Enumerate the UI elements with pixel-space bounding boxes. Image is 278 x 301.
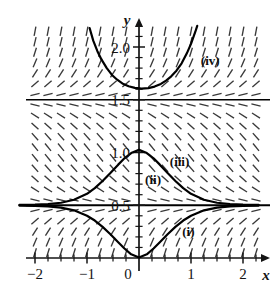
field-tick <box>214 165 220 172</box>
field-tick <box>31 81 38 87</box>
solution-curve-iv <box>90 26 198 89</box>
field-tick <box>86 27 88 36</box>
field-tick <box>70 218 77 224</box>
field-tick <box>213 187 221 192</box>
field-tick <box>109 218 116 224</box>
field-tick <box>227 228 232 236</box>
field-tick <box>96 187 104 192</box>
field-tick <box>147 209 156 211</box>
field-tick <box>240 176 247 182</box>
field-tick <box>212 209 221 211</box>
field-tick <box>122 187 130 192</box>
field-tick <box>254 238 258 247</box>
field-tick <box>214 176 221 182</box>
field-tick <box>251 199 260 201</box>
field-tick <box>201 69 206 77</box>
field-tick <box>188 133 194 140</box>
field-tick <box>149 144 155 151</box>
field-tick <box>123 176 130 182</box>
field-tick <box>73 37 75 46</box>
field-tick <box>73 27 75 36</box>
field-tick <box>69 104 78 106</box>
field-tick <box>240 154 246 161</box>
field-tick <box>201 144 207 151</box>
field-tick <box>45 123 52 129</box>
field-tick <box>253 228 258 236</box>
field-tick <box>227 133 233 140</box>
field-tick <box>82 199 91 201</box>
field-tick <box>226 218 233 224</box>
field-tick <box>151 48 154 57</box>
field-tick <box>95 104 104 106</box>
field-tick <box>82 93 91 95</box>
field-tick <box>56 93 65 95</box>
field-tick <box>30 209 39 211</box>
field-tick <box>43 199 52 201</box>
field-tick <box>238 104 247 106</box>
field-tick <box>229 48 232 57</box>
field-tick <box>84 123 91 129</box>
field-tick <box>252 218 259 224</box>
axis-titles-layer: yx <box>122 12 271 283</box>
field-tick <box>148 113 156 118</box>
field-tick <box>214 69 219 77</box>
field-tick <box>123 69 128 77</box>
field-tick <box>149 133 155 140</box>
field-tick <box>56 104 65 106</box>
field-tick <box>123 123 130 129</box>
field-tick <box>47 48 50 57</box>
field-tick <box>124 238 128 247</box>
field-tick <box>95 209 104 211</box>
field-tick <box>45 69 50 77</box>
field-tick <box>97 144 103 151</box>
field-tick <box>70 113 78 118</box>
x-tick-label: −1 <box>79 266 95 282</box>
field-tick <box>253 133 259 140</box>
field-tick <box>227 69 232 77</box>
field-tick <box>45 176 52 182</box>
field-tick <box>189 58 193 67</box>
field-tick <box>32 176 39 182</box>
field-tick <box>173 104 182 106</box>
field-tick <box>200 218 207 224</box>
field-tick <box>213 81 220 87</box>
field-tick <box>45 133 51 140</box>
field-tick <box>251 104 260 106</box>
field-tick <box>44 81 51 87</box>
field-tick <box>86 37 88 46</box>
field-tick <box>151 37 153 46</box>
field-tick <box>176 238 180 247</box>
field-tick <box>149 123 156 129</box>
field-tick <box>47 37 49 46</box>
field-tick <box>43 93 52 95</box>
field-tick <box>253 123 260 129</box>
x-tick-label: −2 <box>27 266 43 282</box>
field-tick <box>242 48 245 57</box>
field-tick <box>84 228 89 236</box>
field-tick <box>212 104 221 106</box>
field-tick <box>31 187 39 192</box>
field-tick <box>44 113 52 118</box>
field-tick <box>150 58 154 67</box>
field-tick <box>225 104 234 106</box>
field-tick <box>188 69 193 77</box>
equilibrium-lines-layer <box>26 100 270 206</box>
field-tick <box>97 69 102 77</box>
curve-labels-layer: (i)(ii)(iii)(iv) <box>145 53 220 239</box>
field-tick <box>111 58 115 67</box>
field-tick <box>97 123 104 129</box>
field-tick <box>123 133 129 140</box>
field-tick <box>34 27 36 36</box>
field-tick <box>188 176 195 182</box>
field-tick <box>187 81 194 87</box>
field-tick <box>212 93 221 95</box>
field-tick <box>56 199 65 201</box>
field-tick <box>173 93 182 95</box>
field-tick <box>226 81 233 87</box>
field-tick <box>112 27 114 36</box>
field-tick <box>227 176 234 182</box>
field-tick <box>149 228 154 236</box>
field-tick <box>240 133 246 140</box>
field-tick <box>32 165 38 172</box>
field-tick <box>199 104 208 106</box>
